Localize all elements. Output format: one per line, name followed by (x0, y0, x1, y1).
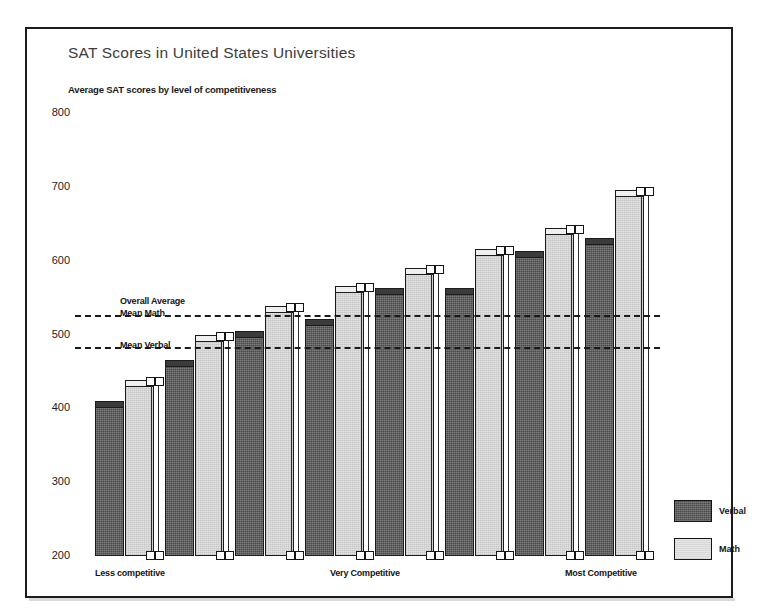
selection-guide-line (298, 308, 299, 558)
selection-handle[interactable] (356, 551, 365, 560)
legend-label-math: Math (719, 544, 740, 554)
bar-verbal[interactable] (95, 401, 124, 556)
bar-top-face (235, 331, 264, 338)
selection-handle[interactable] (155, 377, 164, 386)
selection-handle[interactable] (496, 551, 505, 560)
selection-handle[interactable] (645, 551, 654, 560)
bar-math[interactable] (195, 335, 224, 556)
bar-verbal[interactable] (165, 360, 194, 556)
selection-handle[interactable] (286, 551, 295, 560)
selection-handle[interactable] (645, 187, 654, 196)
selection-guide-line (508, 251, 509, 558)
selection-handle[interactable] (435, 265, 444, 274)
x-axis-tick-label: Very Competitive (330, 568, 400, 578)
selection-handle[interactable] (566, 551, 575, 560)
y-axis-tick-label: 600 (36, 254, 70, 266)
bar-verbal[interactable] (585, 238, 614, 556)
y-axis-tick-label: 300 (36, 475, 70, 487)
selection-handle[interactable] (435, 551, 444, 560)
selection-guide-line (228, 337, 229, 558)
bar-face (475, 255, 504, 556)
selection-guide-line (361, 288, 362, 558)
bar-top-face (95, 401, 124, 408)
y-axis-tick-label: 800 (36, 106, 70, 118)
y-axis-tick-label: 700 (36, 180, 70, 192)
bar-math[interactable] (545, 228, 574, 556)
bar-top-face (585, 238, 614, 245)
bar-math[interactable] (125, 380, 154, 556)
bar-face (195, 341, 224, 556)
legend-swatch-math (674, 538, 712, 560)
selection-handle[interactable] (636, 187, 645, 196)
y-axis-tick-label: 500 (36, 328, 70, 340)
bar-verbal[interactable] (515, 251, 544, 556)
bar-face (545, 234, 574, 556)
selection-guide-line (151, 382, 152, 558)
selection-guide-line (501, 251, 502, 558)
selection-handle[interactable] (426, 265, 435, 274)
bar-face (165, 366, 194, 556)
selection-handle[interactable] (295, 551, 304, 560)
selection-handle[interactable] (216, 551, 225, 560)
selection-handle[interactable] (146, 551, 155, 560)
legend-swatch-verbal (674, 500, 712, 522)
selection-handle[interactable] (356, 283, 365, 292)
plot-area: 200300400500600700800Less competitiveVer… (0, 0, 768, 614)
bar-math[interactable] (615, 190, 644, 556)
selection-handle[interactable] (496, 246, 505, 255)
selection-handle[interactable] (636, 551, 645, 560)
bar-top-face (445, 288, 474, 295)
bar-face (515, 257, 544, 556)
selection-handle[interactable] (155, 551, 164, 560)
selection-guide-line (571, 230, 572, 558)
selection-handle[interactable] (426, 551, 435, 560)
bar-verbal[interactable] (305, 319, 334, 556)
selection-guide-line (431, 270, 432, 558)
bar-top-face (305, 319, 334, 326)
x-axis-tick-label: Most Competitive (565, 568, 637, 578)
bar-face (125, 386, 154, 556)
selection-guide-line (291, 308, 292, 558)
bar-math[interactable] (335, 286, 364, 556)
bar-face (445, 294, 474, 556)
bar-math[interactable] (265, 306, 294, 556)
selection-handle[interactable] (225, 551, 234, 560)
selection-guide-line (438, 270, 439, 558)
bar-verbal[interactable] (235, 331, 264, 556)
chart-screenshot: SAT Scores in United States Universities… (0, 0, 768, 614)
selection-handle[interactable] (146, 377, 155, 386)
selection-guide-line (641, 192, 642, 558)
legend-label-verbal: Verbal (719, 506, 746, 516)
selection-handle[interactable] (295, 303, 304, 312)
selection-guide-line (648, 192, 649, 558)
selection-handle[interactable] (505, 246, 514, 255)
annotation-mean-math: Mean Math (120, 308, 165, 318)
bar-face (335, 292, 364, 556)
selection-handle[interactable] (286, 303, 295, 312)
x-axis-tick-label: Less competitive (95, 568, 165, 578)
selection-handle[interactable] (575, 225, 584, 234)
selection-handle[interactable] (225, 332, 234, 341)
bar-face (235, 337, 264, 556)
bar-face (615, 196, 644, 556)
bar-face (375, 294, 404, 556)
bar-top-face (375, 288, 404, 295)
selection-handle[interactable] (575, 551, 584, 560)
bar-verbal[interactable] (445, 288, 474, 556)
y-axis-tick-label: 400 (36, 401, 70, 413)
selection-handle[interactable] (566, 225, 575, 234)
bar-top-face (515, 251, 544, 258)
selection-handle[interactable] (216, 332, 225, 341)
bar-math[interactable] (405, 268, 434, 556)
bar-face (305, 325, 334, 556)
selection-handle[interactable] (505, 551, 514, 560)
selection-handle[interactable] (365, 551, 374, 560)
bar-verbal[interactable] (375, 288, 404, 556)
selection-handle[interactable] (365, 283, 374, 292)
bar-math[interactable] (475, 249, 504, 556)
annotation-overall-average: Overall Average (120, 296, 185, 306)
selection-guide-line (221, 337, 222, 558)
bar-face (95, 407, 124, 556)
y-axis-tick-label: 200 (36, 549, 70, 561)
selection-guide-line (158, 382, 159, 558)
